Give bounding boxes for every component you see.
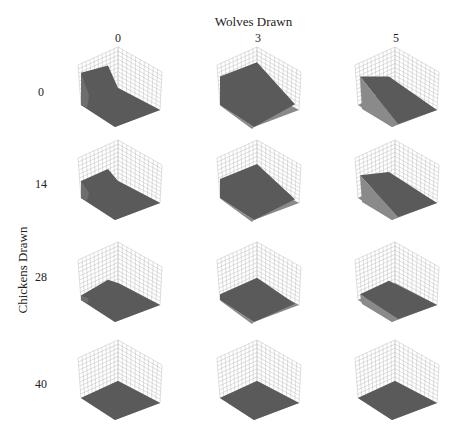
column-label-0: 0 (108, 31, 128, 46)
column-label-3: 3 (248, 31, 268, 46)
row-label-28: 28 (28, 270, 54, 285)
row-label-40: 40 (28, 377, 54, 392)
surface-plot-chickens-40-wolves-0 (68, 338, 168, 433)
surface-plot-chickens-28-wolves-3 (207, 240, 307, 335)
surface-plot-chickens-0-wolves-0 (68, 45, 168, 140)
column-label-5: 5 (386, 31, 406, 46)
surface-plot-chickens-40-wolves-3 (207, 338, 307, 433)
surface-plot-chickens-0-wolves-3 (207, 45, 307, 140)
surface-plot-chickens-14-wolves-0 (68, 138, 168, 233)
surface-plot-chickens-14-wolves-5 (345, 138, 445, 233)
surface-plot-chickens-0-wolves-5 (345, 45, 445, 140)
y-axis-title: Chickens Drawn (15, 226, 31, 313)
x-axis-title: Wolves Drawn (0, 14, 461, 30)
surface-plot-chickens-40-wolves-5 (345, 338, 445, 433)
surface-plot-chickens-28-wolves-0 (68, 240, 168, 335)
surface-plot-chickens-28-wolves-5 (345, 240, 445, 335)
row-label-0: 0 (28, 85, 54, 100)
row-label-14: 14 (28, 177, 54, 192)
surface-plot-chickens-14-wolves-3 (207, 138, 307, 233)
